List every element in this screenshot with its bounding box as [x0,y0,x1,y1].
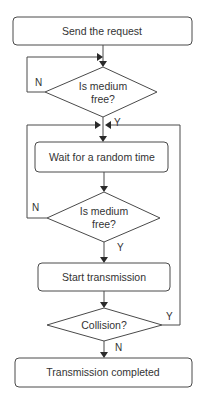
arrow-right-icon [95,121,101,129]
flowchart: Send the request N Is medium free? Y Wai… [0,0,202,402]
decision-collision-label: Collision? [81,319,127,331]
decision-1-line1: Is medium [79,80,128,92]
arrow-down-icon [99,136,107,142]
arrow-left-icon [105,121,111,129]
process-transmission-completed-label: Transmission completed [46,366,160,378]
process-wait-random-label: Wait for a random time [49,151,155,163]
arrow-down-icon [99,61,107,67]
edge-label-collision-y: Y [166,311,173,322]
decision-medium-free-1 [45,67,157,117]
arrow-down-icon [100,302,108,308]
decision-1-line2: free? [91,93,115,105]
edge-label-y1: Y [114,117,121,128]
edge-label-collision-n: N [115,342,122,353]
arrow-down-icon [100,352,108,358]
arrow-down-icon [100,257,108,263]
decision-2-line2: free? [92,218,116,230]
decision-2-line1: Is medium [80,205,129,217]
edge-label-n2: N [32,202,39,213]
process-send-request-label: Send the request [62,25,142,37]
decision-medium-free-2 [47,192,160,242]
arrow-right-icon [97,53,103,61]
arrow-down-icon [100,186,108,192]
edge-label-n1: N [35,77,42,88]
edge-label-y2: Y [117,242,124,253]
process-start-transmission-label: Start transmission [62,271,146,283]
